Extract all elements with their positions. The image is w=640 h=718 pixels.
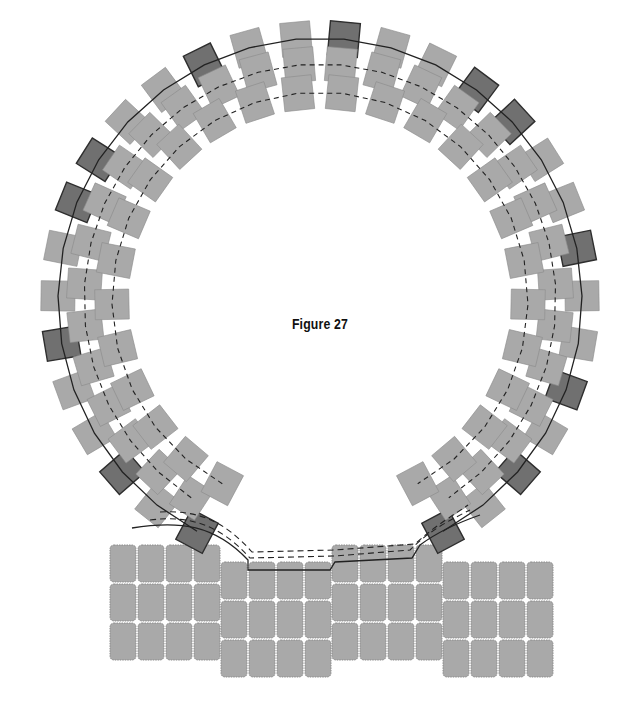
panel-right bbox=[443, 562, 553, 677]
panel-tile bbox=[138, 545, 164, 582]
ring-diagram bbox=[0, 0, 640, 718]
panel-tile bbox=[221, 601, 247, 638]
panel-tile bbox=[277, 601, 303, 638]
panel-tile bbox=[221, 562, 247, 599]
panel-tile bbox=[305, 562, 331, 599]
panel-tile bbox=[388, 584, 414, 621]
panel-tile bbox=[360, 584, 386, 621]
panel-tile bbox=[471, 601, 497, 638]
panel-tile bbox=[443, 601, 469, 638]
panel-tile bbox=[527, 601, 553, 638]
panel-tile bbox=[527, 640, 553, 677]
panel-tile bbox=[416, 584, 442, 621]
panel-tile bbox=[443, 562, 469, 599]
figure-canvas: Figure 27 bbox=[0, 0, 640, 718]
panel-tile bbox=[110, 545, 136, 582]
light-bead bbox=[511, 289, 546, 320]
panel-center-right bbox=[332, 545, 442, 660]
panel-tile bbox=[360, 623, 386, 660]
panel-tile bbox=[166, 623, 192, 660]
panel-tile bbox=[471, 640, 497, 677]
panel-tile bbox=[166, 584, 192, 621]
panel-tile bbox=[194, 623, 220, 660]
panel-tile bbox=[416, 623, 442, 660]
panel-tile bbox=[221, 640, 247, 677]
panel-tile bbox=[166, 545, 192, 582]
panel-left bbox=[110, 545, 220, 660]
panel-tile bbox=[471, 562, 497, 599]
panel-tile bbox=[277, 640, 303, 677]
panel-tile bbox=[305, 640, 331, 677]
panel-tile bbox=[499, 562, 525, 599]
panel-tile bbox=[332, 623, 358, 660]
panel-tile bbox=[110, 584, 136, 621]
panel-tile bbox=[138, 623, 164, 660]
figure-caption: Figure 27 bbox=[279, 315, 361, 332]
panel-tile bbox=[249, 601, 275, 638]
panel-tile bbox=[499, 601, 525, 638]
panel-tile bbox=[499, 640, 525, 677]
panel-tile bbox=[527, 562, 553, 599]
panel-tile bbox=[249, 640, 275, 677]
panel-tile bbox=[194, 584, 220, 621]
panel-tile bbox=[332, 584, 358, 621]
panel-tile bbox=[388, 623, 414, 660]
panel-center-left bbox=[221, 562, 331, 677]
base-panels bbox=[110, 545, 553, 677]
panel-tile bbox=[360, 545, 386, 582]
panel-tile bbox=[110, 623, 136, 660]
ring-layer-inner bbox=[95, 75, 546, 506]
panel-tile bbox=[277, 562, 303, 599]
panel-tile bbox=[305, 601, 331, 638]
panel-tile bbox=[332, 545, 358, 582]
panel-tile bbox=[443, 640, 469, 677]
panel-tile bbox=[138, 584, 164, 621]
light-bead bbox=[235, 82, 274, 124]
panel-tile bbox=[249, 562, 275, 599]
